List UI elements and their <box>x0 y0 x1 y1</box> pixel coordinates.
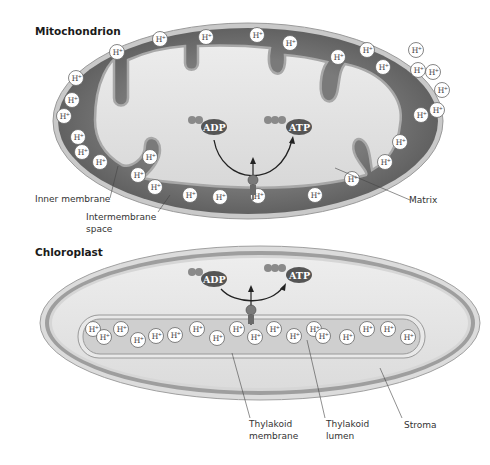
figure: Mitochondrion H + <box>0 0 490 465</box>
label-thylakoid-membrane-1: Thylakoid <box>249 418 292 430</box>
chloroplast-diagram: ADP ATP <box>40 246 480 418</box>
atp-label-chloro: ATP <box>288 270 310 281</box>
adp-label-chloro: ADP <box>202 274 226 285</box>
adp-label-mito: ADP <box>202 122 226 133</box>
label-thylakoid-membrane-2: membrane <box>249 430 298 442</box>
chloroplast-title: Chloroplast <box>35 246 103 258</box>
label-intermembrane-space-2: space <box>86 223 112 235</box>
label-intermembrane-space-1: Intermembrane <box>86 211 156 223</box>
mitochondrion-diagram: ADP ATP <box>53 23 450 219</box>
diagram-canvas: H + <box>0 0 490 465</box>
label-stroma: Stroma <box>404 419 437 431</box>
label-thylakoid-lumen-1: Thylakoid <box>326 418 369 430</box>
atp-label-mito: ATP <box>288 122 310 133</box>
label-thylakoid-lumen-2: lumen <box>326 430 354 442</box>
label-matrix: Matrix <box>409 194 437 206</box>
label-inner-membrane: Inner membrane <box>35 193 110 205</box>
